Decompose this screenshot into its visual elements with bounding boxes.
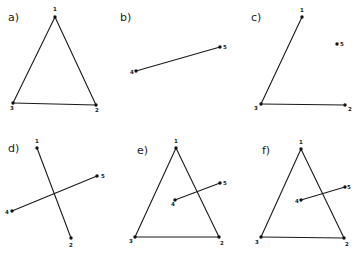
- point-3: [133, 235, 136, 238]
- point-1: [174, 146, 177, 149]
- point-5: [335, 42, 338, 45]
- panel-e: e)12345: [129, 138, 227, 246]
- panel-c: c)1235: [251, 7, 352, 112]
- panel-f: f)12345: [255, 139, 351, 247]
- panel-d: d)1245: [5, 138, 105, 248]
- panel-label: c): [251, 11, 261, 24]
- point-label: 5: [101, 173, 105, 179]
- point-label: 5: [223, 44, 227, 50]
- segment-1-2: [55, 17, 96, 105]
- point-label: 2: [345, 241, 349, 247]
- point-5: [95, 174, 98, 177]
- point-1: [299, 147, 302, 150]
- point-label: 2: [348, 106, 352, 112]
- point-label: 5: [223, 180, 227, 186]
- point-label: 1: [300, 7, 304, 13]
- point-4: [10, 209, 13, 212]
- panel-a: a)123: [8, 6, 99, 113]
- point-label: 3: [254, 105, 258, 111]
- point-4: [299, 198, 302, 201]
- panel-label: f): [262, 144, 270, 157]
- segment-3-1: [135, 148, 176, 237]
- point-label: 4: [5, 209, 9, 215]
- point-5: [218, 181, 221, 184]
- panel-label: a): [8, 11, 19, 24]
- segment-3-2: [261, 104, 345, 105]
- segment-3-1: [13, 17, 55, 103]
- point-label: 2: [95, 107, 99, 113]
- segment-4-5: [175, 183, 220, 200]
- point-label: 5: [347, 184, 351, 190]
- segment-4-5: [12, 176, 97, 211]
- diagram-canvas: a)123b)45c)1235d)1245e)12345f)12345: [0, 0, 356, 258]
- panel-label: d): [8, 142, 19, 155]
- point-5: [218, 45, 221, 48]
- point-2: [217, 235, 220, 238]
- point-label: 1: [299, 139, 303, 145]
- point-label: 2: [220, 240, 224, 246]
- point-label: 4: [295, 198, 299, 204]
- point-1: [35, 146, 38, 149]
- panel-label: e): [137, 144, 148, 157]
- segment-2-3: [261, 237, 344, 238]
- point-label: 2: [69, 242, 73, 248]
- point-label: 1: [53, 6, 57, 12]
- point-3: [259, 235, 262, 238]
- point-2: [343, 103, 346, 106]
- point-label: 3: [255, 239, 259, 245]
- segment-1-3: [261, 17, 302, 104]
- point-label: 5: [340, 41, 344, 47]
- segment-1-2: [37, 148, 71, 238]
- point-label: 4: [130, 69, 134, 75]
- point-3: [259, 102, 262, 105]
- point-4: [134, 69, 137, 72]
- point-label: 3: [10, 105, 14, 111]
- segment-2-3: [13, 103, 96, 105]
- point-label: 1: [35, 138, 39, 144]
- segment-1-2: [176, 148, 219, 237]
- point-1: [53, 15, 56, 18]
- point-label: 1: [174, 138, 178, 144]
- point-2: [69, 236, 72, 239]
- point-label: 3: [129, 238, 133, 244]
- panel-label: b): [120, 11, 131, 24]
- panel-b: b)45: [120, 11, 227, 75]
- point-label: 4: [171, 201, 175, 207]
- segment-3-1: [261, 149, 301, 237]
- segment-4-5: [301, 187, 345, 200]
- segment-4-5: [136, 47, 220, 71]
- point-1: [300, 15, 303, 18]
- point-2: [342, 236, 345, 239]
